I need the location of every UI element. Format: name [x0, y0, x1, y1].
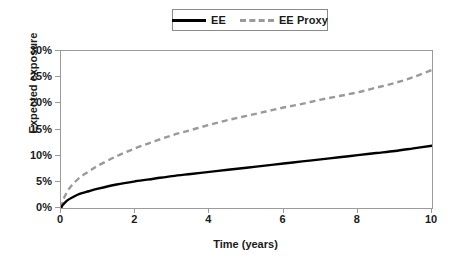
x-tick-label: 0: [40, 213, 80, 225]
y-tick-label: 0%: [8, 201, 52, 213]
y-tick-mark: [55, 102, 60, 103]
x-tick-mark: [134, 208, 135, 213]
y-tick-label: 15%: [8, 123, 52, 135]
series-line-ee-proxy: [61, 70, 432, 208]
chart-legend: EE EE Proxy: [172, 9, 328, 31]
x-tick-mark: [208, 208, 209, 213]
legend-entry-ee: EE: [172, 14, 226, 26]
x-axis-title: Time (years): [60, 238, 431, 250]
legend-line-solid-icon: [172, 19, 206, 22]
x-tick-mark: [431, 208, 432, 213]
x-tick-mark: [283, 208, 284, 213]
plot-area: [60, 50, 433, 209]
x-tick-mark: [357, 208, 358, 213]
y-tick-mark: [55, 76, 60, 77]
x-tick-label: 4: [188, 213, 228, 225]
y-tick-label: 30%: [8, 44, 52, 56]
x-tick-label: 6: [263, 213, 303, 225]
y-axis-ticks: 0%5%10%15%20%25%30%: [0, 0, 52, 265]
x-tick-mark: [60, 208, 61, 213]
y-tick-mark: [55, 129, 60, 130]
y-tick-mark: [55, 155, 60, 156]
x-tick-label: 10: [411, 213, 451, 225]
y-tick-mark: [55, 207, 60, 208]
plot-svg: [61, 51, 432, 208]
y-tick-label: 20%: [8, 96, 52, 108]
y-tick-label: 25%: [8, 70, 52, 82]
legend-entry-ee-proxy: EE Proxy: [240, 14, 328, 26]
y-tick-mark: [55, 181, 60, 182]
x-tick-label: 8: [337, 213, 377, 225]
series-line-ee: [61, 146, 432, 208]
y-tick-mark: [55, 50, 60, 51]
y-tick-label: 10%: [8, 149, 52, 161]
y-tick-label: 5%: [8, 175, 52, 187]
legend-line-dashed-icon: [240, 19, 274, 22]
legend-label-ee-proxy: EE Proxy: [279, 14, 328, 26]
x-tick-label: 2: [114, 213, 154, 225]
expected-exposure-chart: EE EE Proxy Expected exposure 0%5%10%15%…: [0, 0, 457, 265]
legend-label-ee: EE: [211, 14, 226, 26]
